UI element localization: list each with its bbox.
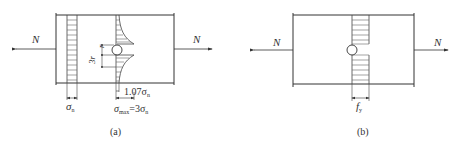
stress-distribution-diagram bbox=[0, 0, 462, 149]
label-1-07-sigma-n: 1.07σn bbox=[124, 87, 150, 98]
force-label-right-a: N bbox=[193, 34, 200, 45]
force-label-right-b: N bbox=[434, 37, 441, 48]
force-label-left-b: N bbox=[273, 37, 280, 48]
caption-a: (a) bbox=[110, 127, 121, 137]
figure-b bbox=[254, 13, 448, 101]
plastic-stress-block-b bbox=[347, 15, 369, 101]
label-sigma-n: σn bbox=[66, 101, 74, 113]
label-fy: fy bbox=[356, 101, 362, 113]
uniform-stress-block-a bbox=[67, 15, 77, 100]
force-label-left-a: N bbox=[32, 34, 39, 45]
caption-b: (b) bbox=[357, 127, 369, 137]
label-sigma-max: σmax=3σn bbox=[114, 104, 148, 115]
figure-a bbox=[16, 13, 212, 100]
hole-icon bbox=[347, 45, 357, 55]
dim-label-r: r bbox=[97, 44, 106, 48]
dim-label-3r: 3r bbox=[88, 56, 97, 64]
hole-icon bbox=[112, 45, 122, 55]
